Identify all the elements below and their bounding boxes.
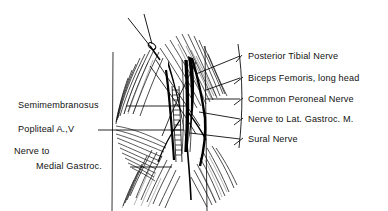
label-nerve-to-lateral-gastrocnemius: Nerve to Lat. Gastroc. M.	[248, 115, 353, 124]
label-posterior-tibial-nerve: Posterior Tibial Nerve	[248, 52, 338, 61]
label-popliteal-artery-vein: Popliteal A.,V	[18, 125, 74, 134]
label-sural-nerve: Sural Nerve	[248, 135, 298, 144]
label-semimembranosus: Semimembranosus	[18, 101, 99, 110]
label-biceps-femoris-long-head: Biceps Femoris, long head	[248, 74, 359, 83]
label-nerve-to-medial-gastrocnemius-line2: Medial Gastroc.	[36, 162, 102, 171]
label-common-peroneal-nerve: Common Peroneal Nerve	[248, 95, 354, 104]
popliteal-fossa-figure: Posterior Tibial Nerve Biceps Femoris, l…	[0, 0, 388, 211]
label-nerve-to-medial-gastrocnemius-line1: Nerve to	[14, 147, 50, 156]
